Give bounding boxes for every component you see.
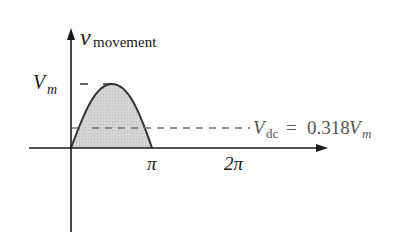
dc-label-value: 0.318 bbox=[307, 117, 350, 138]
y-axis-arrow-icon bbox=[67, 28, 75, 40]
dc-label-equals: = bbox=[286, 117, 297, 138]
x-axis-arrow-icon bbox=[316, 144, 328, 152]
peak-label-subscript: m bbox=[47, 82, 57, 97]
y-axis-label-symbol: v bbox=[80, 24, 91, 50]
dc-label-symbol: V bbox=[253, 117, 267, 138]
x-tick-pi: π bbox=[147, 153, 157, 174]
x-tick-2pi: 2π bbox=[224, 153, 244, 174]
peak-label-symbol: V bbox=[33, 71, 48, 93]
dc-label-value-symbol: V bbox=[349, 117, 363, 138]
y-axis-label-subscript: movement bbox=[93, 34, 157, 50]
dc-label-value-subscript: m bbox=[362, 126, 371, 141]
dc-label-subscript: dc bbox=[266, 126, 279, 141]
waveform-diagram: v movement V m V dc = 0.318 V m π 2π bbox=[0, 0, 404, 239]
